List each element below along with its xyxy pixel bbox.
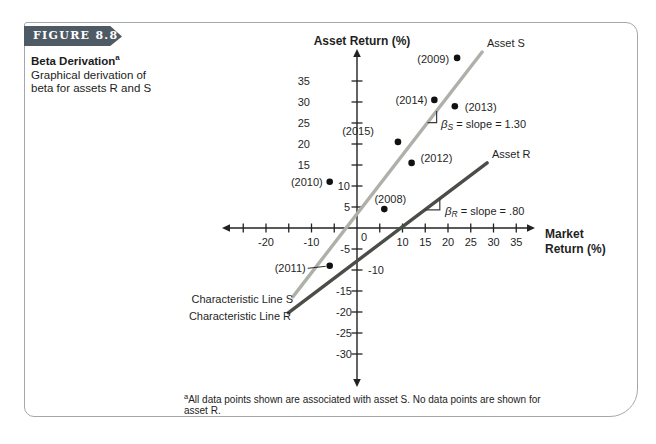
- x-tick-label: -10: [304, 236, 320, 248]
- data-point-2015: [395, 139, 402, 146]
- data-point-2014: [431, 97, 438, 104]
- x-axis-title-line: Return (%): [545, 242, 606, 256]
- y-axis-bottom-arrow-icon: [353, 379, 361, 387]
- y-tick-label: 20: [298, 138, 310, 150]
- x-tick-label: -20: [258, 236, 274, 248]
- data-point-2009: [454, 55, 461, 62]
- y-tick-label: 35: [298, 75, 310, 87]
- y-tick-label: 30: [298, 96, 310, 108]
- point-label-2010: (2010): [291, 176, 323, 188]
- point-label-2012: (2012): [421, 152, 453, 164]
- y-tick-label: -15: [336, 285, 352, 297]
- characteristic-line-s-label: Characteristic Line S: [192, 293, 294, 305]
- y-tick-label: 15: [298, 159, 310, 171]
- beta-s-label: βS = slope = 1.30: [440, 118, 526, 132]
- x-tick-label: 30: [487, 236, 499, 248]
- point-label-2008: (2008): [374, 193, 406, 205]
- point-label-2011: (2011): [275, 262, 306, 274]
- x-tick-label: 20: [442, 236, 454, 248]
- x-tick-label: 25: [465, 236, 477, 248]
- data-point-2013: [452, 103, 459, 110]
- y-tick-label: 25: [298, 117, 310, 129]
- characteristic-line-s: [293, 52, 482, 297]
- x-axis-title-line: Market: [545, 227, 584, 241]
- y-tick-label: -20: [336, 306, 352, 318]
- point-label-2015: (2015): [342, 125, 374, 137]
- y-tick-label: -30: [336, 348, 352, 360]
- data-point-2010: [326, 179, 333, 186]
- page: FIGURE 8.8 Beta Derivationa Graphical de…: [0, 0, 656, 444]
- footnote-text: All data points shown are associated wit…: [184, 394, 541, 416]
- x-tick-label: 10: [396, 236, 408, 248]
- x-axis-left-arrow-icon: [222, 224, 230, 232]
- y-axis-title: Asset Return (%): [314, 34, 411, 48]
- figure-footnote: aAll data points shown are associated wi…: [184, 392, 544, 416]
- beta-r-label: βR = slope = .80: [444, 205, 524, 219]
- asset-s-label: Asset S: [487, 37, 525, 49]
- asset-r-label: Asset R: [492, 148, 531, 160]
- y-tick-label: 5: [344, 201, 350, 213]
- y-axis-top-arrow-icon: [353, 49, 361, 57]
- point-label-2013: (2013): [465, 101, 497, 113]
- y-tick-label: -5: [340, 243, 350, 255]
- data-point-2008: [381, 206, 388, 213]
- x-axis-right-arrow-icon: [527, 224, 535, 232]
- beta-derivation-chart: -20-1001015202530353530252015105-5-10-15…: [0, 0, 656, 444]
- data-point-2011: [326, 263, 333, 270]
- data-point-2012: [408, 160, 415, 167]
- point-label-2009: (2009): [417, 53, 449, 65]
- characteristic-line-r-label: Characteristic Line R: [189, 310, 291, 322]
- y-tick-label: 10: [338, 180, 350, 192]
- x-tick-label: 35: [510, 236, 522, 248]
- x-tick-label: 15: [419, 236, 431, 248]
- x-tick-label-0: 0: [361, 231, 367, 243]
- y-tick-label: -10: [368, 264, 384, 276]
- point-label-2014: (2014): [396, 94, 428, 106]
- y-tick-label: -25: [336, 327, 352, 339]
